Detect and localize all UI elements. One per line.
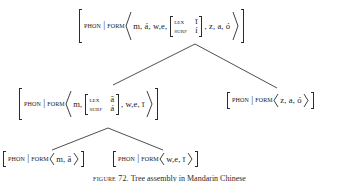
mid-left-sequence-before: m, [72,100,84,109]
root-angle-close-icon [232,11,239,41]
mid-right-node: PHON | FORM z, a, ó [227,92,314,109]
mid-left-angle-close-icon [146,90,153,118]
mid-left-matrix-bracket-right [116,94,119,115]
leaf-right-node: PHON | FORM w,e, ī [113,151,198,167]
root-surf-value: í [195,26,197,35]
leaf-right-form-label: FORM [141,155,159,163]
mid-left-bracket-left [19,88,22,120]
root-surf-row: SURF í [174,26,197,35]
root-bracket-left [79,9,82,43]
leaf-left-bracket-left [3,151,6,167]
root-node: PHON | FORM m, á, w,e, LEX ī SURF í [79,9,244,43]
root-matrix-rows: LEX ī SURF í [174,16,197,37]
root-matrix-bracket-right [199,16,202,37]
root-bracket-right [241,9,244,43]
leaf-right-body: PHON | FORM w,e, ī [118,152,193,166]
root-separator: | [103,21,105,31]
edge-mid-left-to-leaf-right [108,128,163,150]
edge-root-to-mid-left [113,44,195,85]
root-lex-attr: LEX [174,18,192,27]
mid-left-phon-label: PHON [24,100,41,108]
leaf-right-angle-open-icon [159,152,165,166]
leaf-right-bracket-right [195,151,198,167]
mid-right-body: PHON | FORM z, a, ó [232,93,309,108]
mid-left-surf-value: á [110,104,114,113]
root-surf-attr: SURF [174,27,192,36]
mid-left-separator: | [43,99,45,109]
mid-right-sequence: z, a, ó [279,96,303,105]
leaf-right-phon-label: PHON [118,155,135,163]
mid-right-phon-label: PHON [232,96,249,104]
figure-caption: FIGURE 72. Tree assembly in Mandarin Chi… [0,174,339,182]
root-angle-open-icon [125,11,132,41]
feature-structure-tree: PHON | FORM m, á, w,e, LEX ī SURF í [0,0,339,182]
root-matrix-bracket-left [170,16,173,37]
leaf-right-separator: | [137,154,139,164]
leaf-left-bracket-right [81,151,84,167]
leaf-left-angle-open-icon [49,152,55,166]
root-lex-row: LEX ī [174,17,197,26]
leaf-right-bracket-left [113,151,116,167]
leaf-left-phon-label: PHON [8,155,25,163]
mid-right-separator: | [251,96,253,106]
mid-right-form-label: FORM [255,96,273,104]
mid-left-lex-attr: LEX [89,96,107,105]
leaf-left-separator: | [27,154,29,164]
mid-left-matrix-rows: LEX ā SURF á [89,94,114,115]
mid-right-bracket-right [311,92,314,109]
mid-left-form-label: FORM [47,100,65,108]
figure-caption-text: Tree assembly in Mandarin Chinese [131,174,246,182]
leaf-left-angle-close-icon [73,152,79,166]
mid-left-lex-value: ā [110,95,114,104]
leaf-left-form-label: FORM [31,155,49,163]
root-sequence-before: m, á, w,e, [132,22,169,31]
root-phon-label: PHON [84,22,101,30]
root-lex-surf-matrix: LEX ī SURF í [170,16,202,37]
root-lex-value: ī [195,17,197,26]
mid-left-surf-attr: SURF [89,105,107,114]
mid-left-lex-surf-matrix: LEX ā SURF á [85,94,119,115]
leaf-left-body: PHON | FORM m, ā [8,152,79,166]
edge-root-to-mid-right [195,44,277,88]
mid-left-node: PHON | FORM m, LEX ā SURF á [19,88,158,120]
leaf-right-sequence: w,e, ī [165,155,187,164]
figure-caption-label: FIGURE 72. [93,174,129,182]
mid-right-angle-open-icon [273,93,279,108]
mid-right-bracket-left [227,92,230,109]
leaf-right-angle-close-icon [187,152,193,166]
leaf-left-node: PHON | FORM m, ā [3,151,84,167]
mid-right-angle-close-icon [303,93,309,108]
mid-left-sequence-after: , w,e, ī [120,100,146,109]
mid-left-bracket-right [155,88,158,120]
mid-left-body: PHON | FORM m, LEX ā SURF á [24,90,153,118]
leaf-left-sequence: m, ā [55,155,73,164]
root-form-label: FORM [107,22,125,30]
root-sequence-after: , z, a, ó [203,22,232,31]
mid-left-surf-row: SURF á [89,104,114,113]
mid-left-lex-row: LEX ā [89,95,114,104]
mid-left-matrix-bracket-left [85,94,88,115]
root-body: PHON | FORM m, á, w,e, LEX ī SURF í [84,11,239,41]
edge-mid-left-to-leaf-left [52,128,108,150]
mid-left-angle-open-icon [65,90,72,118]
